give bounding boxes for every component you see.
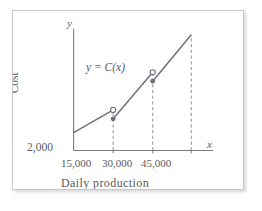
- x-axis-letter: x: [207, 139, 212, 150]
- xtick-label-45000: 45,000: [141, 157, 171, 169]
- y-axis-title: Cost: [12, 72, 20, 93]
- open-endpoint-30000: [150, 70, 155, 75]
- xtick-label-30000: 30,000: [102, 157, 132, 169]
- xtick-label-15000: 15,000: [61, 157, 91, 169]
- equation-label: y = C(x): [86, 62, 125, 74]
- open-endpoint-15000: [111, 107, 116, 112]
- y-axis-letter: y: [67, 18, 72, 29]
- closed-endpoint-15000: [111, 116, 116, 121]
- closed-endpoint-30000: [150, 79, 155, 84]
- curve-segment-2: [113, 72, 153, 118]
- curve-segment-3: [153, 35, 192, 81]
- figure-caption: Daily production: [61, 177, 149, 189]
- figure-panel: y x 2,000 y = C(x) Cost 15,000 30,000 45…: [12, 10, 244, 190]
- curve-segment-1: [74, 110, 114, 133]
- y-intercept-label: 2,000: [27, 142, 53, 154]
